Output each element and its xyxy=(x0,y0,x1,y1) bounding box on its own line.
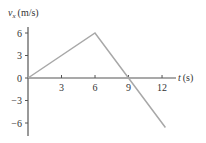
y-ticks: 630−3−6 xyxy=(11,28,28,129)
x-tick-label: 12 xyxy=(157,82,167,93)
velocity-line xyxy=(28,33,165,128)
x-axis-label: t(s) xyxy=(178,72,193,84)
x-tick-label: 3 xyxy=(59,82,64,93)
y-tick-label: 0 xyxy=(17,73,22,84)
y-axis-label: vx(m/s) xyxy=(8,7,39,20)
x-tick-label: 9 xyxy=(126,82,131,93)
y-tick-label: 3 xyxy=(17,50,22,61)
velocity-time-chart: 630−3−6 36912 vx(m/s) t(s) xyxy=(0,0,206,143)
y-tick-label: −3 xyxy=(11,95,22,106)
y-tick-label: −6 xyxy=(11,118,22,129)
y-tick-label: 6 xyxy=(17,28,22,39)
x-tick-label: 6 xyxy=(93,82,98,93)
